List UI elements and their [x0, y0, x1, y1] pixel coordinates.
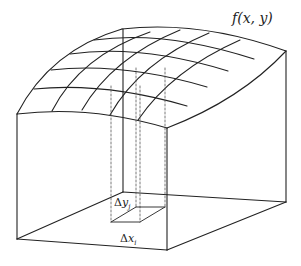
double-integral-solid-diagram [0, 0, 301, 266]
delta-y-symbol: Δ [114, 196, 122, 209]
delta-x-subscript: i [134, 239, 136, 247]
surface-label: f(x, y) [232, 10, 273, 26]
surface-mesh [17, 27, 286, 128]
delta-y-subscript: j [128, 203, 130, 211]
delta-x-label: Δxi [120, 232, 136, 247]
delta-x-symbol: Δ [120, 232, 128, 245]
delta-y-label: Δyj [114, 196, 130, 211]
